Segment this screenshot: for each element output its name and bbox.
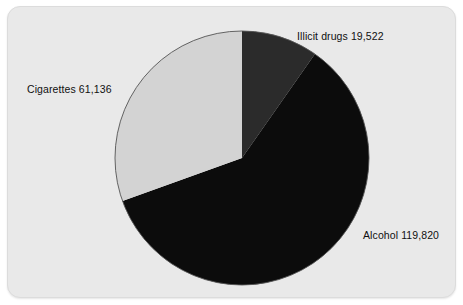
pie-label-alcohol: Alcohol 119,820 xyxy=(363,230,439,242)
pie-label-cigarettes: Cigarettes 61,136 xyxy=(27,84,112,96)
figure-container: Illicit drugs 19,522 Cigarettes 61,136 A… xyxy=(0,0,463,305)
pie-slices xyxy=(115,31,369,285)
pie-chart-svg xyxy=(8,7,456,298)
chart-card: Illicit drugs 19,522 Cigarettes 61,136 A… xyxy=(7,6,456,298)
pie-label-illicit-drugs: Illicit drugs 19,522 xyxy=(297,31,384,43)
pie-chart-plot-area: Illicit drugs 19,522 Cigarettes 61,136 A… xyxy=(8,7,456,298)
